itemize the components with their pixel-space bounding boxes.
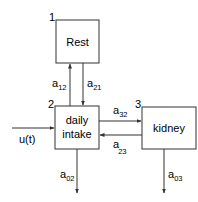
svg-text:a03: a03 [168, 168, 182, 183]
svg-text:a23: a23 [113, 138, 126, 156]
flow-a02-subscript: 02 [66, 174, 74, 183]
flow-a21: a21 [83, 63, 101, 105]
input-u-label: u(t) [19, 133, 36, 145]
compartment-kidney: kidney 3 [135, 98, 196, 149]
svg-text:a21: a21 [87, 77, 101, 92]
compartment-diagram: Rest 1 daily intake 2 kidney 3 a12 a21 a… [0, 0, 198, 202]
compartment-2-number: 2 [48, 98, 54, 110]
compartment-daily-intake-label-line2: intake [62, 128, 91, 140]
flow-a23: a23 [100, 135, 142, 156]
compartment-3-number: 3 [135, 98, 141, 110]
compartment-rest: Rest 1 [49, 11, 99, 63]
svg-text:a02: a02 [60, 168, 74, 183]
svg-text:a12: a12 [52, 77, 66, 92]
flow-a03: a03 [164, 149, 182, 193]
compartment-rest-label: Rest [66, 36, 89, 48]
flow-a02: a02 [60, 149, 77, 193]
compartment-daily-intake-label-line1: daily [66, 114, 89, 126]
compartment-daily-intake: daily intake 2 [48, 98, 99, 149]
flow-a12: a12 [52, 64, 70, 106]
flow-a23-subscript: 23 [118, 147, 126, 156]
flow-a32-subscript: 32 [119, 110, 127, 119]
svg-text:a32: a32 [113, 104, 127, 119]
flow-a03-subscript: 03 [174, 174, 182, 183]
flow-a12-subscript: 12 [58, 83, 66, 92]
compartment-1-number: 1 [49, 11, 55, 23]
input-u: u(t) [12, 128, 54, 145]
compartment-kidney-label: kidney [153, 122, 185, 134]
flow-a21-subscript: 21 [93, 83, 101, 92]
